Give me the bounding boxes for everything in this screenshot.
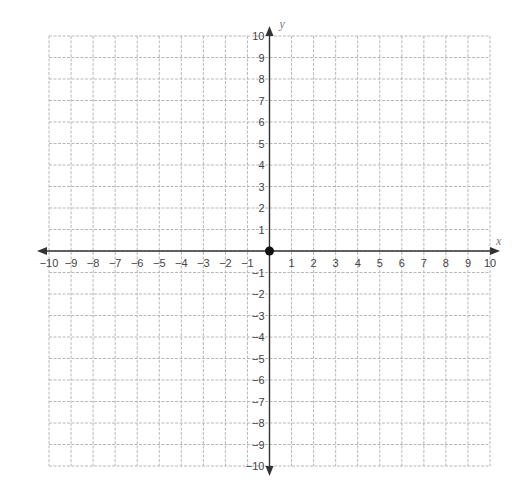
y-tick-label: 8 [258,73,264,85]
x-tick-label: 7 [421,257,427,269]
y-axis-down-arrow-icon [266,466,274,476]
x-tick-label: 9 [465,257,471,269]
x-tick-label: 5 [377,257,383,269]
x-tick-label: 4 [355,257,361,269]
x-tick-label: −4 [175,257,188,269]
y-tick-label: −4 [252,331,265,343]
x-tick-label: −10 [40,257,59,269]
x-axis-tick-labels: −10−9−8−7−6−5−4−3−2−112345678910 [40,257,496,269]
x-tick-label: −7 [109,257,122,269]
y-tick-label: 4 [258,159,264,171]
y-tick-label: −8 [252,417,265,429]
x-tick-label: 8 [443,257,449,269]
x-tick-label: 6 [399,257,405,269]
y-tick-label: 7 [258,95,264,107]
x-tick-label: −9 [65,257,78,269]
y-tick-label: −9 [252,439,265,451]
y-tick-label: 6 [258,116,264,128]
y-tick-label: 10 [252,30,264,42]
x-tick-label: −8 [87,257,100,269]
y-tick-label: 3 [258,181,264,193]
y-axis-label: y [279,17,286,31]
y-tick-label: 9 [258,52,264,64]
x-axis-right-arrow-icon [490,247,500,255]
x-tick-label: −5 [153,257,166,269]
x-tick-label: 3 [333,257,339,269]
y-tick-label: 5 [258,138,264,150]
y-tick-label: 2 [258,202,264,214]
y-tick-label: −2 [252,288,265,300]
y-tick-label: −1 [252,267,265,279]
x-axis-label: x [495,234,502,248]
y-tick-label: −10 [246,460,265,472]
y-tick-label: −6 [252,374,265,386]
y-tick-label: 1 [258,224,264,236]
x-axis-left-arrow-icon [37,247,47,255]
x-tick-label: −2 [219,257,232,269]
coordinate-plane: −10−9−8−7−6−5−4−3−2−112345678910 1098765… [0,0,524,494]
y-tick-label: −7 [252,396,265,408]
y-axis-up-arrow-icon [266,26,274,36]
y-tick-label: −3 [252,310,265,322]
x-tick-label: 10 [484,257,496,269]
plotted-points [265,247,274,256]
origin-point [265,247,274,256]
y-tick-label: −5 [252,353,265,365]
x-tick-label: 2 [311,257,317,269]
x-tick-label: −3 [197,257,210,269]
x-tick-label: 1 [288,257,294,269]
x-tick-label: −6 [131,257,144,269]
